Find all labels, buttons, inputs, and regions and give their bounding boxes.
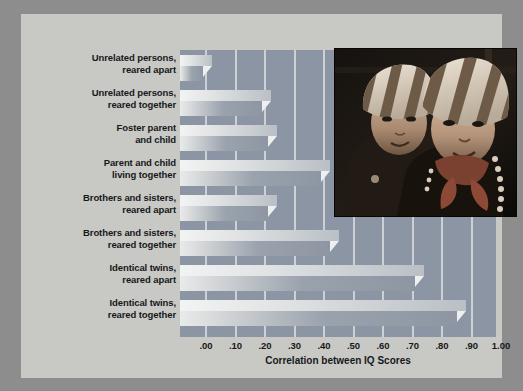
bar-end-cap [268,206,277,221]
chart-card: Unrelated persons, reared apart Unrelate… [21,14,502,378]
x-axis-title: Correlation between IQ Scores [180,355,496,366]
x-tick-label: .30 [288,340,301,351]
bar [180,300,466,326]
bar-top-face [180,125,277,136]
bar-row [180,261,496,296]
x-tick-label: .80 [435,340,448,351]
category-label: Unrelated persons, reared together [45,87,176,110]
x-tick-label: 1.00 [492,340,511,351]
bar-top-face [180,195,277,206]
bar-top-face [180,300,466,311]
x-tick-label: .70 [406,340,419,351]
category-label-line1: Brothers and sisters, [83,227,176,238]
bar-end-cap [262,101,271,116]
bar-front-face [180,206,268,221]
bar-front-face [180,66,203,81]
category-label: Identical twins, reared together [45,297,176,320]
bar-front-face [180,171,321,186]
photo-image [335,49,516,216]
x-tick-label: .90 [465,340,478,351]
bar [180,265,424,291]
bar-front-face [180,276,415,291]
bar [180,55,212,81]
category-label-line1: Foster parent [117,122,176,133]
category-label-line1: Brothers and sisters, [83,192,176,203]
x-tick-label: .20 [258,340,271,351]
bar-end-cap [321,171,330,186]
bar-top-face [180,160,330,171]
bar-top-face [180,90,271,101]
category-label-line2: reared apart [122,274,176,285]
twins-photo-inset [334,48,517,217]
bar [180,230,339,256]
category-label: Brothers and sisters, reared together [45,227,176,250]
bar-front-face [180,241,330,256]
x-tick-label: .40 [317,340,330,351]
category-label: Brothers and sisters, reared apart [45,192,176,215]
x-axis-tick-labels: .00.10.20.30.40.50.60.70.80.901.00 [180,340,510,354]
bar-row [180,226,496,261]
category-label-line2: and child [135,134,176,145]
category-label-line2: reared together [108,239,176,250]
x-tick-label: .50 [347,340,360,351]
bar-top-face [180,230,339,241]
bar-end-cap [330,241,339,256]
bar-front-face [180,136,268,151]
bar-end-cap [415,276,424,291]
figure-root: Unrelated persons, reared apart Unrelate… [0,0,523,391]
category-label-line1: Identical twins, [110,297,177,308]
bar-top-face [180,265,424,276]
category-label: Parent and child living together [45,157,176,180]
category-label-line2: living together [112,169,176,180]
x-tick-label: .10 [229,340,242,351]
photo-artwork [335,49,516,216]
category-label-line1: Unrelated persons, [92,52,176,63]
bar-front-face [180,101,262,116]
bar [180,160,330,186]
category-label-line1: Identical twins, [110,262,177,273]
category-label-line2: reared together [108,309,176,320]
x-tick-label: .60 [376,340,389,351]
bar [180,195,277,221]
bar-end-cap [268,136,277,151]
bar-end-cap [203,66,212,81]
bar-row [180,296,496,331]
category-label: Unrelated persons, reared apart [45,52,176,75]
category-label-line2: reared apart [122,64,176,75]
category-axis-labels: Unrelated persons, reared apart Unrelate… [45,50,176,337]
category-label-line2: reared apart [122,204,176,215]
category-label: Foster parent and child [45,122,176,145]
bar-front-face [180,311,457,326]
category-label-line1: Unrelated persons, [92,87,176,98]
bar-top-face [180,55,212,66]
bar [180,125,277,151]
category-label-line2: reared together [108,99,176,110]
x-tick-label: .00 [199,340,212,351]
category-label-line1: Parent and child [104,157,176,168]
bar [180,90,271,116]
bar-end-cap [457,311,466,326]
category-label: Identical twins, reared apart [45,262,176,285]
